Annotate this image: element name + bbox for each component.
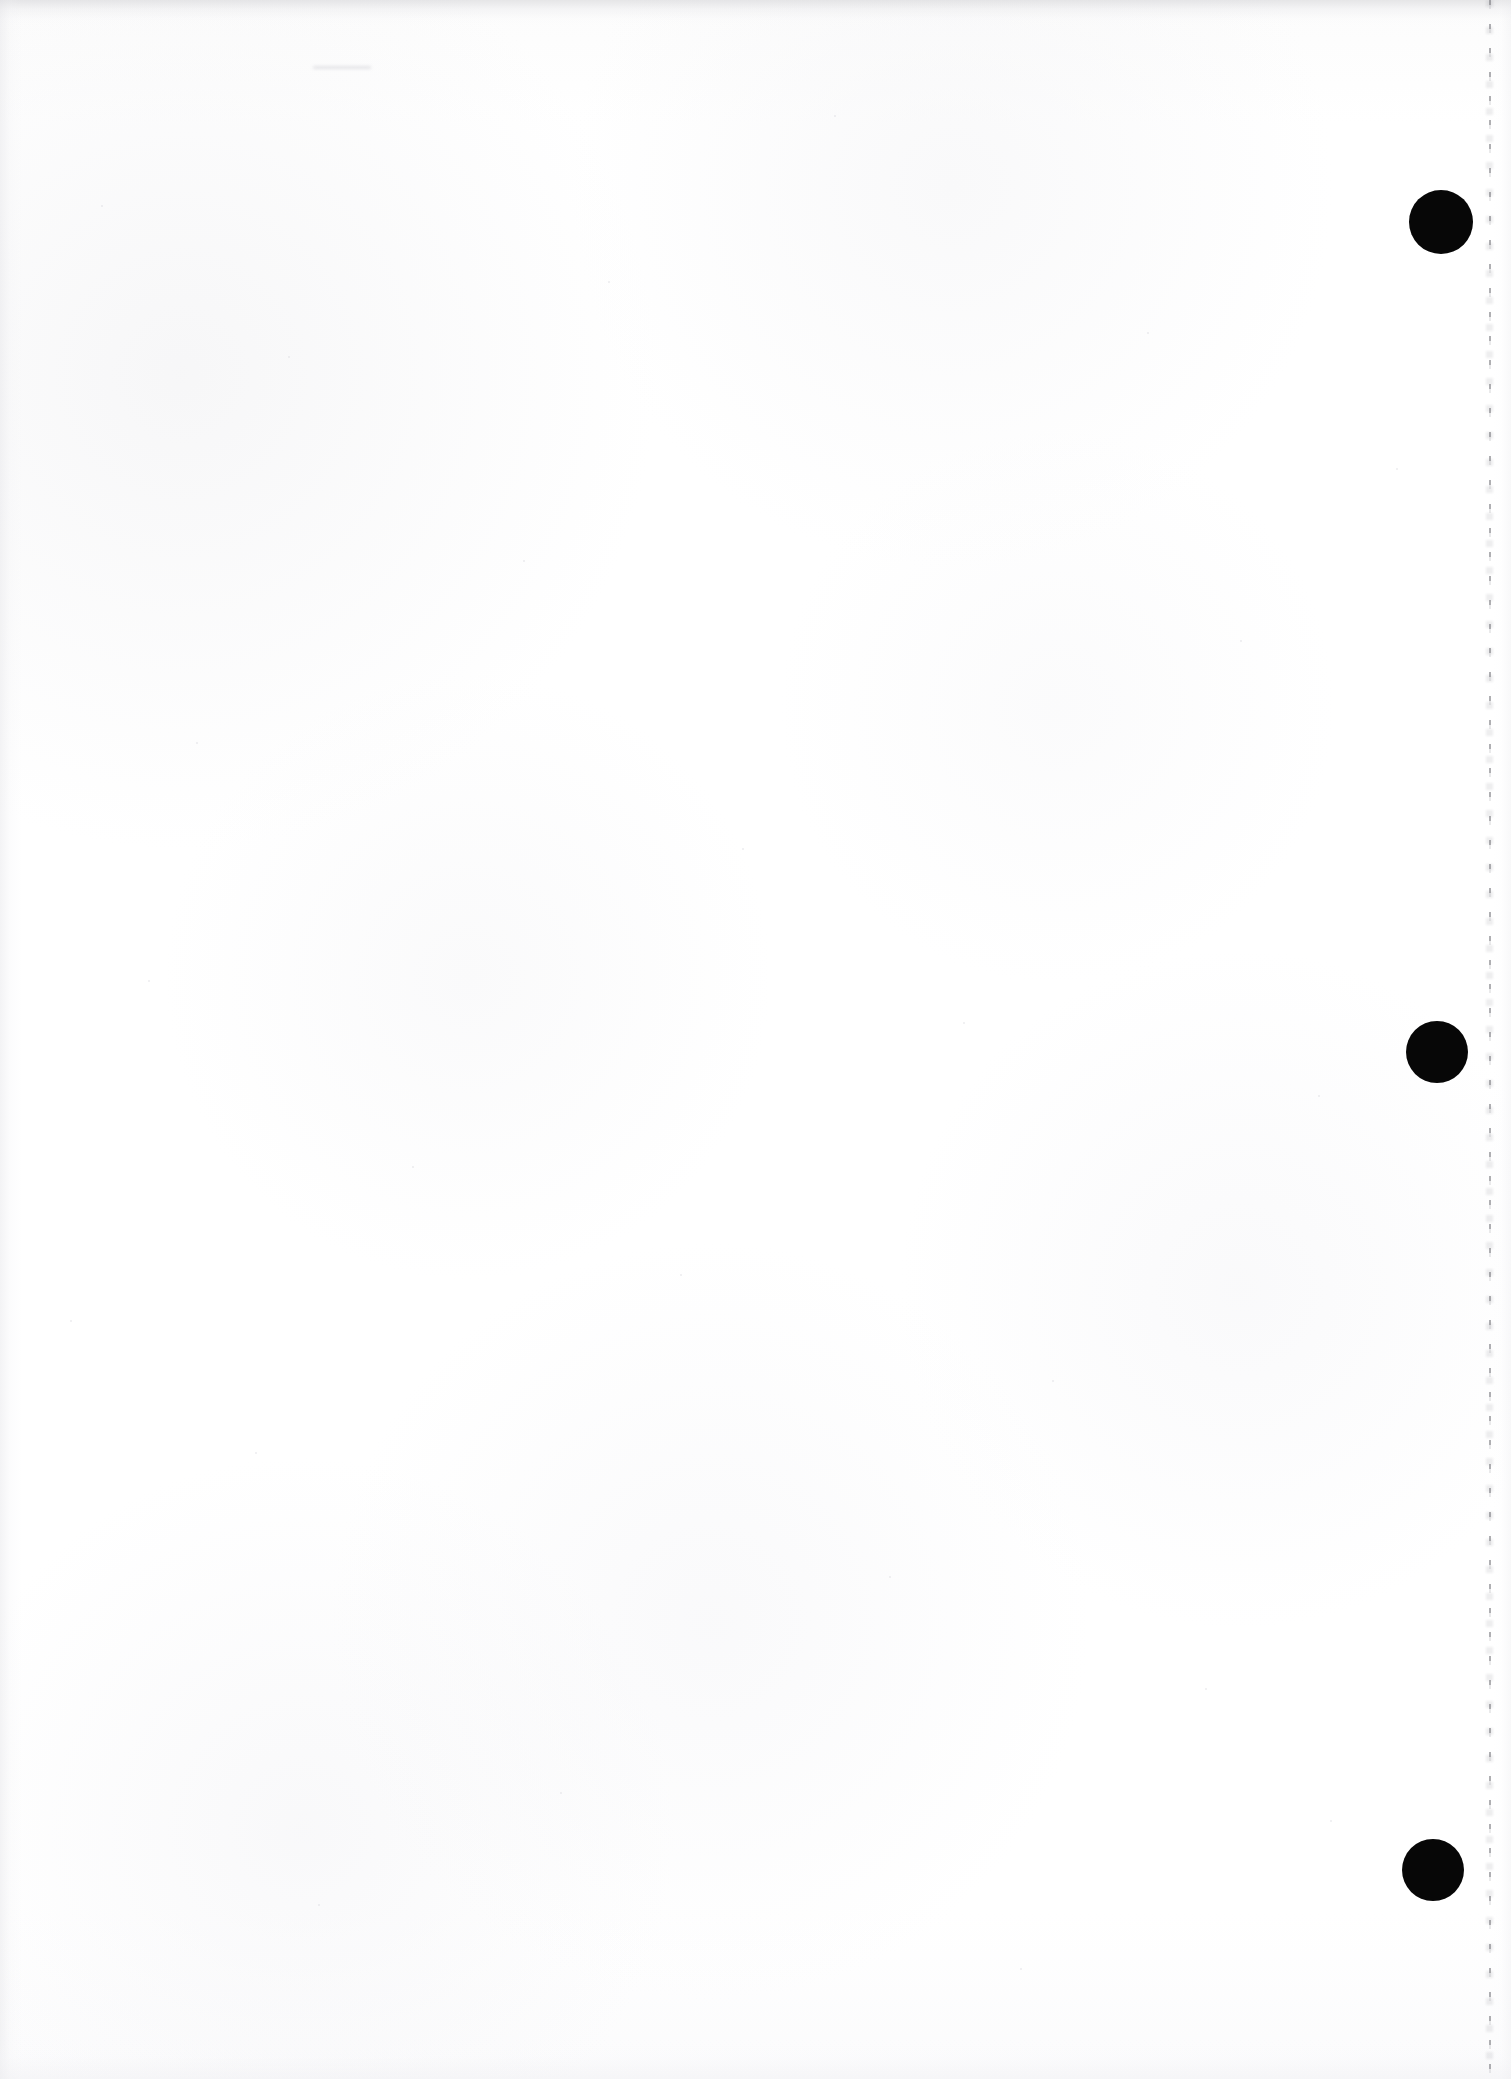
page-body-text bbox=[150, 150, 1300, 1850]
scan-top-edge-shadow bbox=[0, 0, 1511, 26]
paper-smudge bbox=[313, 66, 371, 69]
paper-speck bbox=[1396, 468, 1398, 470]
scanned-page bbox=[0, 0, 1511, 2079]
paper-speck bbox=[101, 205, 103, 207]
paper-speck bbox=[1318, 1095, 1320, 1097]
scan-bottom-edge-shadow bbox=[0, 2039, 1511, 2079]
paper-speck bbox=[1020, 1968, 1022, 1970]
paper-speck bbox=[318, 1904, 320, 1906]
registration-mark-top bbox=[1409, 190, 1473, 254]
registration-mark-middle bbox=[1406, 1021, 1468, 1083]
scan-left-edge-shadow bbox=[0, 0, 22, 2079]
paper-speck bbox=[1330, 1820, 1332, 1822]
paper-speck bbox=[834, 115, 836, 117]
paper-speck bbox=[70, 1320, 72, 1322]
scan-right-edge-shadow bbox=[1493, 0, 1511, 2079]
right-edge-dotted-line bbox=[1489, 0, 1491, 2079]
right-edge-dotted-line-halo bbox=[1486, 0, 1493, 2079]
registration-mark-bottom bbox=[1402, 1839, 1464, 1901]
